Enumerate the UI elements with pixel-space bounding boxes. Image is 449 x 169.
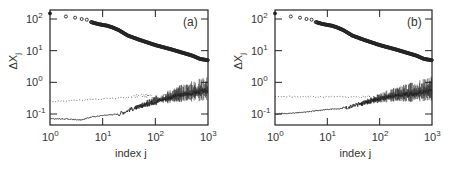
x-tick-label: 101 bbox=[319, 129, 336, 143]
y-tick-label: 101 bbox=[251, 43, 268, 57]
chart-a: 10010110210310-1100101102index jΔXj(a) bbox=[0, 0, 224, 169]
x-tick-label: 103 bbox=[200, 129, 217, 143]
x-axis-label: index j bbox=[340, 147, 372, 159]
y-axis-label: ΔXj bbox=[7, 53, 22, 70]
y-tick-label: 10-1 bbox=[251, 106, 271, 120]
circle-marker bbox=[74, 16, 77, 19]
y-axis-label: ΔXj bbox=[232, 53, 247, 70]
panel-label: (b) bbox=[407, 15, 422, 29]
x-tick-label: 100 bbox=[42, 129, 59, 143]
y-tick-label: 102 bbox=[26, 11, 43, 25]
x-tick-label: 102 bbox=[372, 129, 389, 143]
panel-b: 10010110210310-1100101102index jΔXj(b) bbox=[224, 0, 448, 169]
y-tick-label: 10-1 bbox=[26, 106, 46, 120]
x-axis-label: index j bbox=[115, 147, 147, 159]
panel-label: (a) bbox=[183, 15, 198, 29]
x-tick-label: 100 bbox=[267, 129, 284, 143]
circle-marker bbox=[64, 15, 67, 18]
first-marker bbox=[48, 12, 51, 15]
circle-marker bbox=[305, 18, 308, 21]
x-tick-label: 103 bbox=[424, 129, 441, 143]
y-tick-label: 101 bbox=[26, 43, 43, 57]
circle-marker bbox=[299, 16, 302, 19]
x-tick-label: 101 bbox=[95, 129, 112, 143]
circle-marker bbox=[85, 18, 88, 21]
panel-a: 10010110210310-1100101102index jΔXj(a) bbox=[0, 0, 224, 169]
y-tick-label: 100 bbox=[251, 74, 268, 88]
x-tick-label: 102 bbox=[147, 129, 164, 143]
y-tick-label: 102 bbox=[251, 11, 268, 25]
chart-b: 10010110210310-1100101102index jΔXj(b) bbox=[224, 0, 449, 169]
first-marker bbox=[273, 12, 276, 15]
circle-marker bbox=[289, 15, 292, 18]
circle-marker bbox=[310, 18, 313, 21]
circle-marker bbox=[80, 18, 83, 21]
y-tick-label: 100 bbox=[26, 74, 43, 88]
